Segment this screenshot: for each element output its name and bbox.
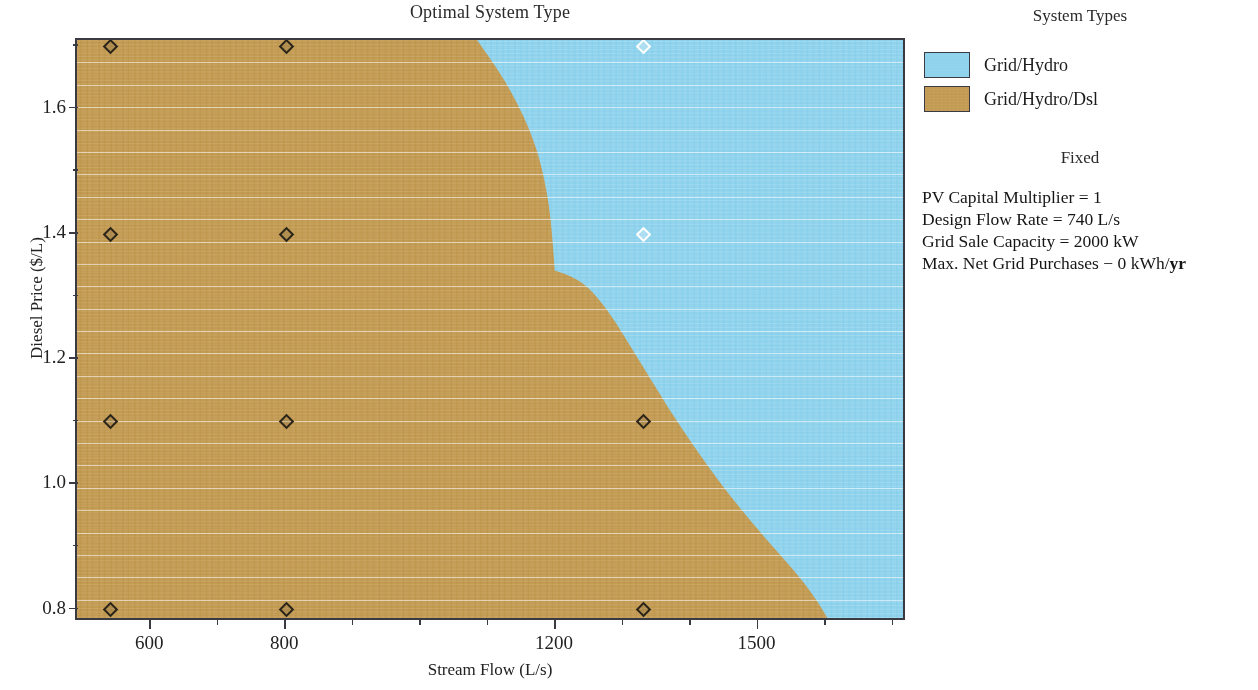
x-tick-minor: [622, 620, 624, 625]
page-title: Optimal System Type: [75, 2, 905, 23]
y-tick-major: [69, 608, 78, 610]
y-axis-ticks: [66, 38, 78, 620]
fixed-parameter-line: Design Flow Rate = 740 L/s: [922, 208, 1258, 230]
fixed-parameter-unit-bold: yr: [1170, 253, 1187, 273]
plot-area: [75, 38, 905, 620]
swatch-grain: [925, 87, 969, 111]
y-axis-title: Diesel Price ($/L): [27, 153, 47, 443]
region-layer: [77, 40, 903, 618]
y-tick-minor: [73, 44, 78, 46]
legend-item[interactable]: Grid/Hydro: [920, 48, 1250, 82]
y-tick-major: [69, 482, 78, 484]
legend-label: Grid/Hydro: [984, 55, 1068, 76]
x-tick-label: 1500: [738, 632, 776, 654]
x-tick-minor: [892, 620, 894, 625]
side-panel: System Types Grid/HydroGrid/Hydro/Dsl Fi…: [920, 0, 1258, 690]
legend-item[interactable]: Grid/Hydro/Dsl: [920, 82, 1250, 116]
x-tick-label: 800: [270, 632, 299, 654]
legend-swatch: [924, 86, 970, 112]
y-tick-minor: [73, 420, 78, 422]
x-tick-major: [554, 620, 556, 629]
x-tick-label: 600: [135, 632, 164, 654]
x-tick-major: [757, 620, 759, 629]
y-tick-major: [69, 357, 78, 359]
x-tick-major: [284, 620, 286, 629]
y-tick-minor: [73, 295, 78, 297]
x-tick-minor: [352, 620, 354, 625]
plot-frame: [75, 38, 905, 620]
y-tick-major: [69, 107, 78, 109]
x-tick-minor: [487, 620, 489, 625]
x-axis-title: Stream Flow (L/s): [75, 660, 905, 680]
x-tick-major: [149, 620, 151, 629]
x-tick-minor: [217, 620, 219, 625]
x-tick-minor: [689, 620, 691, 625]
legend: Grid/HydroGrid/Hydro/Dsl: [920, 48, 1250, 116]
x-axis-ticks: [75, 620, 905, 632]
y-tick-label: 1.0: [42, 471, 66, 493]
y-tick-major: [69, 232, 78, 234]
swatch-grain: [925, 53, 969, 77]
y-tick-minor: [73, 545, 78, 547]
fixed-parameter-line: Max. Net Grid Purchases − 0 kWh/yr: [922, 252, 1258, 274]
x-tick-minor: [419, 620, 421, 625]
legend-label: Grid/Hydro/Dsl: [984, 89, 1098, 110]
fixed-parameters-title: Fixed: [920, 148, 1240, 168]
region-svg: [77, 40, 903, 618]
x-axis-tick-labels: 60080012001500: [75, 632, 905, 656]
fixed-parameter-line: Grid Sale Capacity = 2000 kW: [922, 230, 1258, 252]
fixed-parameters-list: PV Capital Multiplier = 1Design Flow Rat…: [922, 186, 1258, 274]
fixed-parameter-line: PV Capital Multiplier = 1: [922, 186, 1258, 208]
y-tick-label: 1.6: [42, 96, 66, 118]
legend-swatch: [924, 52, 970, 78]
y-tick-label: 0.8: [42, 597, 66, 619]
legend-title: System Types: [920, 6, 1240, 26]
x-tick-label: 1200: [535, 632, 573, 654]
x-tick-minor: [824, 620, 826, 625]
y-tick-minor: [73, 169, 78, 171]
chart-page: Optimal System Type: [0, 0, 1258, 690]
